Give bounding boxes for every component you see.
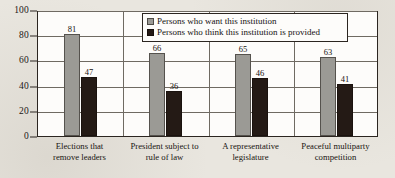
- chart-legend: Persons who want this institutionPersons…: [142, 13, 348, 42]
- bar-provided: [81, 77, 97, 136]
- x-axis-label-line: A representative: [208, 141, 293, 152]
- y-tick-mark-60: [30, 61, 37, 62]
- bar-value-label: 63: [324, 48, 333, 57]
- bar-want: [235, 54, 251, 136]
- y-tick-label-20: 20: [19, 107, 29, 117]
- bar-provided: [252, 78, 268, 136]
- bar-value-label: 65: [239, 45, 248, 54]
- y-tick-label-40: 40: [19, 82, 29, 92]
- bar-value-label: 41: [341, 75, 350, 84]
- y-tick-mark-100: [30, 11, 37, 12]
- bar-provided: [337, 84, 353, 136]
- bar-value-label: 47: [85, 68, 94, 77]
- x-axis-label-line: Peaceful multiparty: [293, 141, 378, 152]
- bar-want: [64, 34, 80, 136]
- legend-swatch-want-icon: [147, 18, 154, 25]
- x-axis-label-line: competition: [293, 152, 378, 163]
- chart-page: 020406080100 8147663665466341 Elections …: [0, 0, 395, 178]
- x-axis-label-line: legislature: [208, 152, 293, 163]
- y-tick-mark-40: [30, 86, 37, 87]
- x-axis-label: Peaceful multipartycompetition: [293, 141, 378, 162]
- y-tick-mark-80: [30, 36, 37, 37]
- x-axis-category-labels: Elections thatremove leadersPresident su…: [37, 141, 378, 178]
- x-axis-label-line: rule of law: [122, 152, 207, 163]
- x-axis-label-line: Elections that: [37, 141, 122, 152]
- y-tick-label-0: 0: [24, 132, 29, 142]
- x-axis-label: President subject torule of law: [122, 141, 207, 162]
- x-axis-label-line: President subject to: [122, 141, 207, 152]
- legend-item-1: Persons who think this institution is pr…: [147, 27, 343, 38]
- y-tick-label-80: 80: [19, 31, 29, 41]
- bar-provided: [166, 91, 182, 136]
- bar-value-label: 66: [153, 44, 162, 53]
- legend-swatch-provided-icon: [147, 29, 154, 36]
- bar-value-label: 81: [68, 25, 77, 34]
- y-tick-mark-20: [30, 111, 37, 112]
- bar-value-label: 46: [256, 69, 265, 78]
- y-axis: 020406080100: [0, 0, 37, 148]
- x-axis-label: A representativelegislature: [208, 141, 293, 162]
- y-tick-label-60: 60: [19, 57, 29, 67]
- bar-want: [149, 53, 165, 136]
- bar-want: [320, 57, 336, 136]
- y-tick-label-100: 100: [14, 6, 29, 16]
- y-tick-mark-0: [30, 137, 37, 138]
- legend-label: Persons who think this institution is pr…: [157, 27, 320, 38]
- x-axis-label-line: remove leaders: [37, 152, 122, 163]
- bar-value-label: 36: [170, 82, 179, 91]
- legend-label: Persons who want this institution: [157, 16, 277, 27]
- legend-item-0: Persons who want this institution: [147, 16, 343, 27]
- x-axis-label: Elections thatremove leaders: [37, 141, 122, 162]
- bar-group: 8147: [38, 12, 123, 136]
